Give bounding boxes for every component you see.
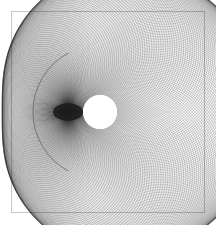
central-white-disc-group [83,95,117,129]
circle-envelope-figure [0,0,216,225]
dark-lens [53,103,83,121]
central-white-disc [83,95,117,129]
dark-lens-group [53,103,83,121]
figure-page [0,0,216,225]
